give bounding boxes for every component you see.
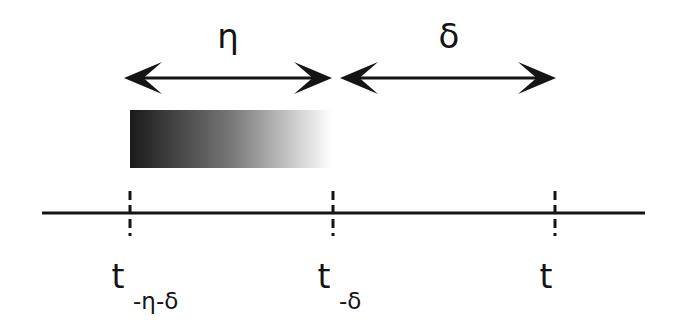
axis-tick-label-main: t [112,257,125,296]
interval-symbol-delta: δ [439,16,460,56]
interval-arrow-delta [340,62,556,94]
diagram-canvas: η δ t -η-δ t -δ t [0,0,677,326]
axis-tick-label-main: t [318,257,331,296]
timeline-diagram: η δ t -η-δ t -δ t [0,0,677,326]
axis-tick-label-subscript: -η-δ [133,288,178,314]
memory-decay-bar [130,110,332,168]
interval-arrow-eta [124,62,332,94]
axis-tick-label-subscript: -δ [339,288,361,314]
axis-tick-label-main: t [540,257,553,296]
interval-symbol-eta: η [217,16,239,56]
